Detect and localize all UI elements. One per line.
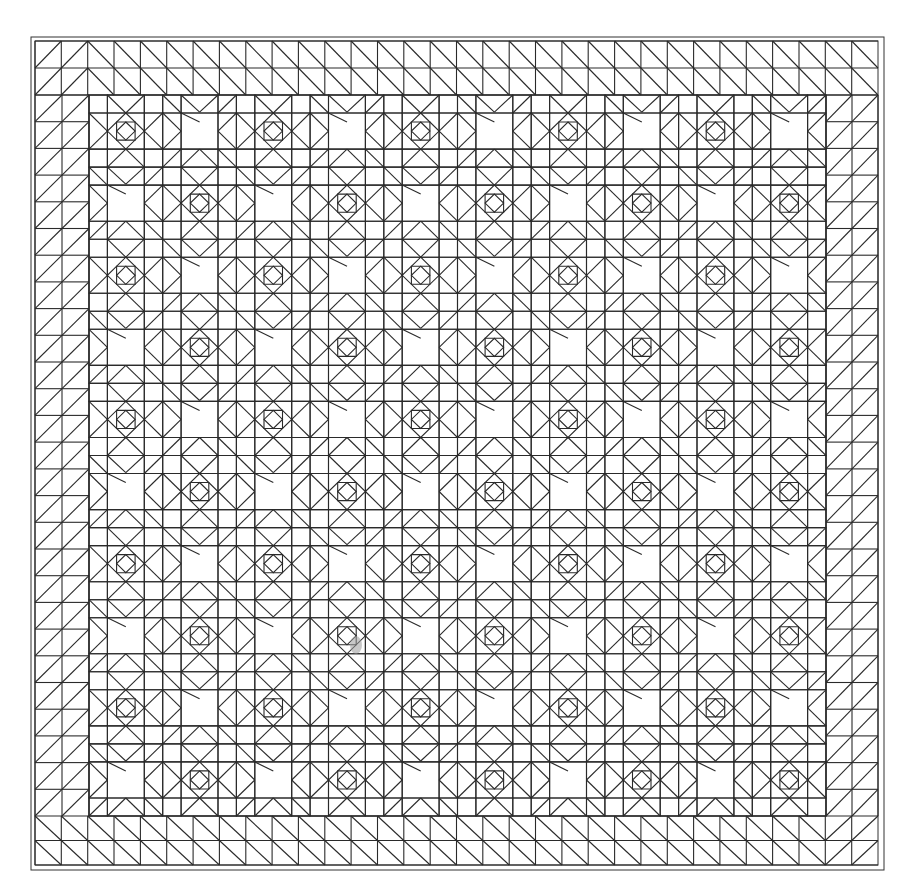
quilt-drawing [0,0,909,893]
triangle-border [35,41,878,865]
smudge-mark [350,636,362,654]
inner-frame [35,41,878,865]
quilt-body-blocks [89,95,826,816]
